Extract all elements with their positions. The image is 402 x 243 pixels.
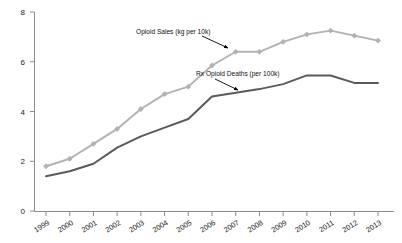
x-tick-label: 1999 bbox=[32, 218, 51, 234]
series-2 bbox=[46, 75, 378, 176]
y-tick-label: 2 bbox=[21, 157, 26, 166]
annotations-group: Opioid Sales (kg per 10k)Rx Opioid Death… bbox=[136, 28, 280, 90]
x-tick-label: 2011 bbox=[317, 218, 335, 234]
x-tick-label: 2003 bbox=[127, 218, 146, 234]
x-tick-label: 2001 bbox=[80, 218, 99, 234]
y-tick-label: 8 bbox=[21, 8, 26, 17]
opioid-sales-and-deaths-chart: 02468 1999200020012002200320042005200620… bbox=[0, 0, 402, 243]
data-point-marker bbox=[351, 33, 357, 39]
data-point-marker bbox=[280, 39, 286, 45]
chart-canvas: 02468 1999200020012002200320042005200620… bbox=[0, 0, 402, 243]
rx-opioid-deaths-annotation-arrow bbox=[215, 79, 238, 90]
data-point-marker bbox=[43, 163, 49, 169]
x-axis-ticks: 1999200020012002200320042005200620072008… bbox=[32, 212, 383, 235]
opioid-sales-annotation-arrow bbox=[202, 36, 228, 48]
x-tick-label: 2009 bbox=[269, 218, 288, 234]
data-point-marker bbox=[375, 38, 381, 44]
y-axis-ticks: 02468 bbox=[21, 8, 35, 216]
series-line bbox=[46, 75, 378, 176]
data-point-marker bbox=[328, 28, 334, 34]
y-tick-label: 6 bbox=[21, 58, 26, 67]
x-tick-label: 2012 bbox=[341, 218, 360, 234]
x-tick-label: 2010 bbox=[293, 218, 312, 234]
y-tick-label: 4 bbox=[21, 108, 26, 117]
y-tick-label: 0 bbox=[21, 207, 26, 216]
x-tick-label: 2000 bbox=[56, 218, 75, 234]
x-tick-label: 2013 bbox=[364, 218, 383, 234]
x-tick-label: 2005 bbox=[175, 218, 194, 234]
x-tick-label: 2006 bbox=[198, 218, 217, 234]
data-series-group bbox=[43, 28, 381, 176]
opioid-sales-annotation-label: Opioid Sales (kg per 10k) bbox=[136, 28, 210, 36]
data-point-marker bbox=[257, 49, 263, 55]
series-line bbox=[46, 31, 378, 167]
x-tick-label: 2008 bbox=[246, 218, 265, 234]
data-point-marker bbox=[304, 31, 310, 37]
series-1 bbox=[43, 28, 381, 169]
x-tick-label: 2004 bbox=[151, 218, 170, 234]
rx-opioid-deaths-annotation-label: Rx Opioid Deaths (per 100k) bbox=[196, 70, 280, 78]
x-tick-label: 2007 bbox=[222, 218, 241, 234]
x-tick-label: 2002 bbox=[103, 218, 122, 234]
